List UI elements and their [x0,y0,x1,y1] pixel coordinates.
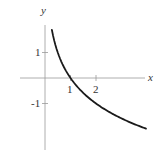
y-tick-label-1: 1 [35,46,41,58]
y-tick-label-neg1: -1 [31,97,40,109]
x-tick-label-2: 2 [93,83,99,95]
function-plot: y x 1 2 1 -1 [0,0,164,151]
x-axis-label: x [147,71,153,83]
function-curve [52,30,146,129]
y-axis-label: y [40,4,46,16]
x-tick-label-1: 1 [67,83,73,95]
